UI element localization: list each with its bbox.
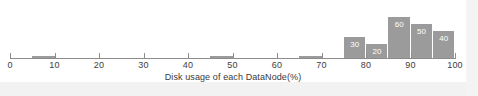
bar-value-label: 40 [433,34,455,43]
x-tick-mark [366,53,367,58]
x-tick-label: 10 [35,60,75,71]
x-tick-label: 90 [391,60,431,71]
chart-figure: 3020605040 0102030405060708090100 Disk u… [0,0,478,96]
x-tick-mark [411,53,412,58]
x-tick-mark [233,53,234,58]
bar-value-label: 60 [388,20,410,29]
x-tick-label: 80 [346,60,386,71]
x-tick-label: 0 [0,60,30,71]
x-tick-mark [277,53,278,58]
x-axis-label: Disk usage of each DataNode(%) [0,72,466,83]
bar-value-label: 20 [366,47,388,56]
x-tick-mark [322,53,323,58]
bar-value-label: 50 [411,27,433,36]
x-tick-label: 60 [257,60,297,71]
x-tick-label: 70 [302,60,342,71]
x-tick-mark [99,53,100,58]
x-tick-mark [188,53,189,58]
plot-area: 3020605040 0102030405060708090100 Disk u… [0,0,478,96]
x-axis-line [10,58,456,59]
x-tick-mark [10,53,11,58]
x-tick-label: 30 [124,60,164,71]
bar-value-label: 30 [344,40,366,49]
x-tick-mark [144,53,145,58]
x-tick-label: 100 [435,60,475,71]
x-tick-label: 40 [168,60,208,71]
x-tick-label: 20 [79,60,119,71]
x-tick-mark [455,53,456,58]
x-tick-label: 50 [213,60,253,71]
x-tick-mark [55,53,56,58]
